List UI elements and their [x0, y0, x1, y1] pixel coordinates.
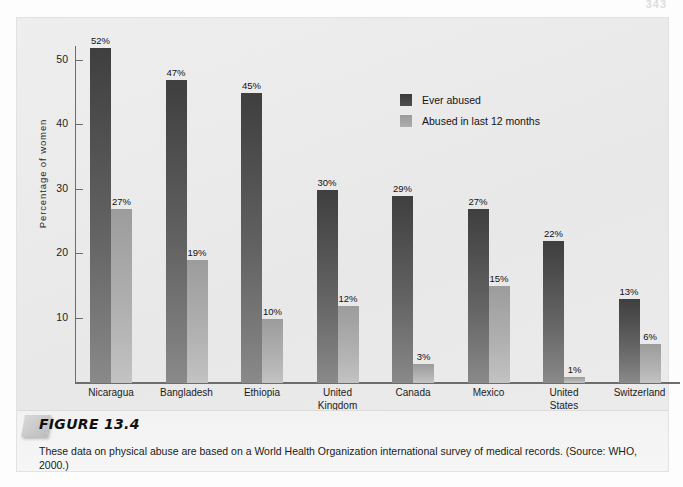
y-tick-label: 40 — [56, 117, 75, 129]
chart-legend: Ever abused Abused in last 12 months — [400, 94, 540, 136]
bar-value-label: 27% — [112, 196, 131, 207]
bar-value-label: 22% — [544, 228, 563, 239]
bar-group: 13%6% — [619, 18, 661, 383]
legend-item-last-12-months: Abused in last 12 months — [400, 115, 540, 127]
bar-ever-abused[interactable]: 47% — [166, 80, 187, 383]
y-axis-title: Percentage of women — [37, 94, 48, 254]
bar-value-label: 1% — [568, 364, 582, 375]
bar-value-label: 12% — [338, 293, 357, 304]
bar-ever-abused[interactable]: 27% — [468, 209, 489, 383]
bar-group: 30%12% — [317, 18, 359, 383]
bar-ever-abused[interactable]: 52% — [90, 48, 111, 383]
bar-value-label: 45% — [242, 80, 261, 91]
bar-group: 27%15% — [468, 18, 510, 383]
x-axis-label-switzerland: Switzerland — [594, 387, 683, 400]
legend-swatch-icon-last-12-months — [400, 115, 412, 127]
bar-value-label: 19% — [187, 247, 206, 258]
y-tick-label: 50 — [56, 53, 75, 65]
y-tick-label: 10 — [56, 311, 75, 323]
bar-chart: Percentage of women 1020304050 52%27%47%… — [17, 18, 668, 410]
legend-item-ever-abused: Ever abused — [400, 94, 540, 106]
x-axis-label-line: Switzerland — [594, 387, 683, 400]
bar-value-label: 27% — [468, 196, 487, 207]
bar-last-12-months[interactable]: 19% — [187, 260, 208, 383]
bar-value-label: 52% — [91, 35, 110, 46]
bar-group: 52%27% — [90, 18, 132, 383]
figure-caption-area: FIGURE 13.4 These data on physical abuse… — [17, 410, 668, 471]
bar-value-label: 30% — [317, 177, 336, 188]
plot-area: 52%27%47%19%45%10%30%12%29%3%27%15%22%1%… — [76, 18, 680, 383]
y-tick-label: 20 — [56, 246, 75, 258]
bar-last-12-months[interactable]: 1% — [564, 377, 585, 383]
bar-group: 47%19% — [166, 18, 208, 383]
page-number: 343 — [646, 0, 667, 10]
figure-container: Percentage of women 1020304050 52%27%47%… — [17, 18, 668, 471]
bar-ever-abused[interactable]: 13% — [619, 299, 640, 383]
bar-ever-abused[interactable]: 30% — [317, 190, 338, 384]
legend-label-ever-abused: Ever abused — [422, 94, 481, 106]
bar-last-12-months[interactable]: 27% — [111, 209, 132, 383]
bar-group: 45%10% — [241, 18, 283, 383]
bar-last-12-months[interactable]: 15% — [489, 286, 510, 383]
bar-last-12-months[interactable]: 10% — [262, 319, 283, 384]
legend-label-last-12-months: Abused in last 12 months — [422, 115, 540, 127]
legend-swatch-icon-ever-abused — [400, 94, 412, 106]
figure-caption-text: These data on physical abuse are based o… — [39, 444, 657, 472]
bar-last-12-months[interactable]: 6% — [640, 344, 661, 383]
bar-value-label: 6% — [643, 331, 657, 342]
y-tick-label: 30 — [56, 182, 75, 194]
figure-label: FIGURE 13.4 — [39, 416, 140, 432]
bar-ever-abused[interactable]: 22% — [543, 241, 564, 383]
bar-last-12-months[interactable]: 3% — [413, 364, 434, 383]
bar-value-label: 15% — [489, 273, 508, 284]
bar-value-label: 13% — [619, 286, 638, 297]
bar-ever-abused[interactable]: 45% — [241, 93, 262, 383]
figure-page: 343 Percentage of women 1020304050 52%27… — [0, 0, 683, 487]
bar-value-label: 47% — [166, 67, 185, 78]
bar-value-label: 29% — [393, 183, 412, 194]
bar-last-12-months[interactable]: 12% — [338, 306, 359, 383]
bar-group: 29%3% — [392, 18, 434, 383]
bar-group: 22%1% — [543, 18, 585, 383]
bar-ever-abused[interactable]: 29% — [392, 196, 413, 383]
bar-value-label: 10% — [263, 306, 282, 317]
bar-value-label: 3% — [417, 351, 431, 362]
